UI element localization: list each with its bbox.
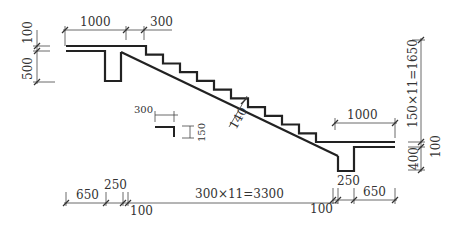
bottom-landing-beam <box>338 147 395 171</box>
stair-structure <box>66 46 395 171</box>
dim-top-landing: 1000 <box>80 15 111 29</box>
dim-left-beam: 500 <box>21 57 35 80</box>
dim-detail-riser: 150 <box>196 123 207 142</box>
dim-right-beam: 400 <box>407 147 421 170</box>
dim-bottom-left-beam: 250 <box>104 178 127 192</box>
dim-detail-tread: 300 <box>134 104 153 115</box>
drawing-canvas: 1000 300 100 500 150×11=1650 1000 100 40… <box>0 0 465 233</box>
stair-waist-underside <box>121 52 338 156</box>
stair-section-drawing: 1000 300 100 500 150×11=1650 1000 100 40… <box>0 0 465 233</box>
top-landing-beam <box>66 51 121 81</box>
dim-waist: 140 <box>226 105 250 132</box>
dim-bottom-right-offset: 100 <box>310 202 333 216</box>
dim-bottom-left-landing: 650 <box>76 188 99 202</box>
dim-bottom-right-landing: 650 <box>363 185 386 199</box>
dim-bottom-run: 300×11=3300 <box>195 187 284 201</box>
dim-right-slab: 100 <box>429 135 443 158</box>
dim-bottom-left-offset: 100 <box>130 204 153 218</box>
tread-riser-detail <box>155 127 174 137</box>
dim-left-slab: 100 <box>21 21 35 44</box>
dim-right-height: 150×11=1650 <box>406 39 420 128</box>
dim-right-landing: 1000 <box>347 108 378 122</box>
dim-bottom-right-beam: 250 <box>337 174 360 188</box>
dim-top-tread: 300 <box>150 15 173 29</box>
